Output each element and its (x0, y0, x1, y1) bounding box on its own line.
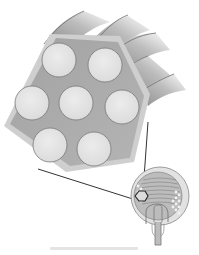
caption-watermark (50, 247, 138, 250)
inset-stem (155, 222, 161, 245)
fiber-middle-left (15, 86, 49, 120)
fiber-center (59, 86, 93, 120)
fiber-top-left (42, 43, 76, 77)
fiber-top-right (88, 48, 122, 82)
leader-line-left (38, 169, 136, 200)
fiber-bottom-right (77, 132, 111, 166)
fiber-bottom-left (33, 128, 67, 162)
fiber-middle-right (105, 90, 139, 124)
inset-sphere (131, 167, 189, 245)
fiber-bundle-diagram (0, 0, 199, 255)
